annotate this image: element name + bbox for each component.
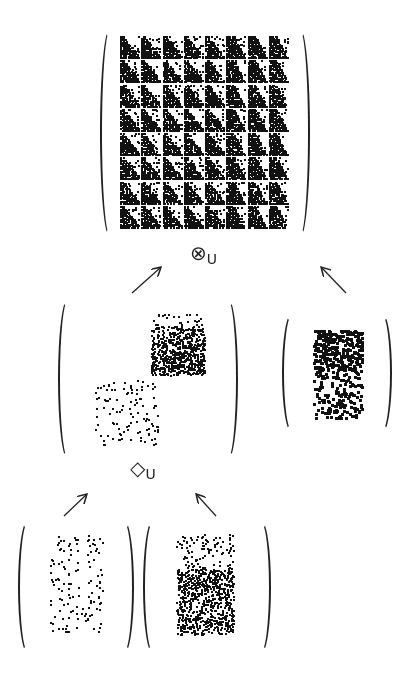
arrow-icon bbox=[132, 268, 160, 293]
diamond-icon: ◇ bbox=[130, 456, 145, 480]
diamond-operator: ◇U bbox=[130, 458, 156, 484]
otimes-operator: ⊗U bbox=[190, 243, 217, 269]
arrow-icon bbox=[197, 495, 216, 516]
arrow-icon bbox=[64, 495, 86, 516]
otimes-icon: ⊗ bbox=[190, 241, 207, 265]
arrows-layer bbox=[0, 0, 411, 674]
arrow-icon bbox=[322, 268, 346, 293]
